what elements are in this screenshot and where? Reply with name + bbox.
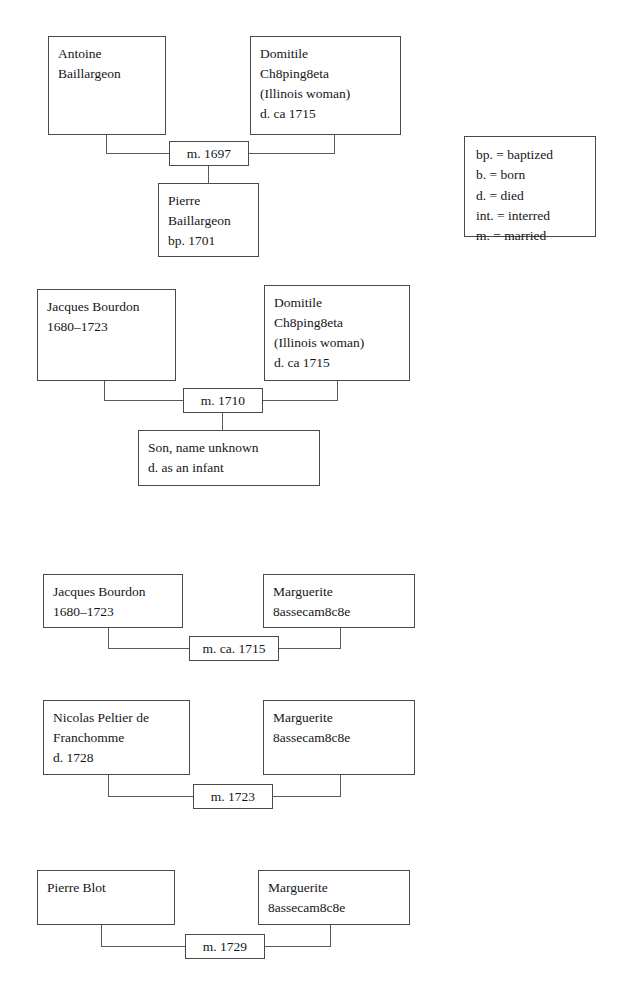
marriage-label: m. 1729 xyxy=(203,940,247,954)
person-line: d. ca 1715 xyxy=(274,353,400,373)
connector-mother-drop xyxy=(334,135,335,154)
person-box-mother[interactable]: Domitile Ch8ping8eta (Illinois woman) d.… xyxy=(250,36,401,135)
person-line: Baillargeon xyxy=(168,211,249,231)
marriage-box[interactable]: m. 1723 xyxy=(193,784,273,809)
marriage-label: m. 1697 xyxy=(187,147,231,161)
person-line: Pierre xyxy=(168,191,249,211)
person-line: Marguerite xyxy=(273,582,405,602)
person-line: Ch8ping8eta xyxy=(260,64,391,84)
marriage-box[interactable]: m. 1710 xyxy=(183,388,263,413)
legend-line-baptized: bp. = baptized xyxy=(476,145,584,165)
marriage-box[interactable]: m. 1697 xyxy=(169,141,249,166)
person-line: Franchomme xyxy=(53,728,180,748)
person-line: Pierre Blot xyxy=(47,878,165,898)
connector-mother-drop xyxy=(337,381,338,401)
person-line: Baillargeon xyxy=(58,64,156,84)
legend-line-died: d. = died xyxy=(476,186,584,206)
person-box-father[interactable]: Jacques Bourdon 1680–1723 xyxy=(43,574,183,628)
connector-child-drop xyxy=(222,413,223,431)
person-box-father[interactable]: Antoine Baillargeon xyxy=(48,36,166,135)
connector-father-horizontal xyxy=(101,946,186,947)
person-line: (Illinois woman) xyxy=(260,84,391,104)
person-line: 1680–1723 xyxy=(47,317,166,337)
legend-line-married: m. = married xyxy=(476,226,584,246)
connector-mother-horizontal xyxy=(248,153,335,154)
connector-mother-horizontal xyxy=(265,946,331,947)
connector-mother-horizontal xyxy=(272,796,341,797)
marriage-label: m. ca. 1715 xyxy=(203,642,266,656)
person-line: d. 1728 xyxy=(53,748,180,768)
person-line: 8assecam8c8e xyxy=(268,898,400,918)
person-line: 1680–1723 xyxy=(53,602,173,622)
connector-mother-drop xyxy=(330,925,331,947)
connector-father-drop xyxy=(106,135,107,154)
person-line: Domitile xyxy=(274,293,400,313)
person-box-child[interactable]: Son, name unknown d. as an infant xyxy=(138,430,320,486)
person-line: d. ca 1715 xyxy=(260,104,391,124)
connector-father-drop xyxy=(104,381,105,401)
connector-mother-drop xyxy=(340,628,341,649)
person-line: Marguerite xyxy=(268,878,400,898)
connector-father-horizontal xyxy=(104,400,184,401)
connector-father-horizontal xyxy=(108,796,194,797)
connector-mother-drop xyxy=(340,775,341,797)
connector-father-drop xyxy=(108,775,109,797)
person-line: Jacques Bourdon xyxy=(53,582,173,602)
person-line: Marguerite xyxy=(273,708,405,728)
person-box-father[interactable]: Pierre Blot xyxy=(37,870,175,925)
connector-father-drop xyxy=(108,628,109,649)
marriage-box[interactable]: m. 1729 xyxy=(185,934,265,959)
legend-line-born: b. = born xyxy=(476,165,584,185)
person-line: 8assecam8c8e xyxy=(273,602,405,622)
connector-father-horizontal xyxy=(108,648,190,649)
person-line: Domitile xyxy=(260,44,391,64)
marriage-box[interactable]: m. ca. 1715 xyxy=(189,636,279,661)
marriage-label: m. 1710 xyxy=(201,394,245,408)
legend-line-interred: int. = interred xyxy=(476,206,584,226)
person-line: bp. 1701 xyxy=(168,231,249,251)
person-line: Ch8ping8eta xyxy=(274,313,400,333)
person-line: (Illinois woman) xyxy=(274,333,400,353)
connector-mother-horizontal xyxy=(262,400,338,401)
person-box-father[interactable]: Nicolas Peltier de Franchomme d. 1728 xyxy=(43,700,190,775)
person-box-mother[interactable]: Domitile Ch8ping8eta (Illinois woman) d.… xyxy=(264,285,410,381)
marriage-label: m. 1723 xyxy=(211,790,255,804)
connector-father-horizontal xyxy=(106,153,170,154)
person-box-mother[interactable]: Marguerite 8assecam8c8e xyxy=(263,700,415,775)
genealogy-chart-page: Antoine Baillargeon Domitile Ch8ping8eta… xyxy=(0,0,625,1005)
person-line: Nicolas Peltier de xyxy=(53,708,180,728)
abbreviation-legend: bp. = baptized b. = born d. = died int. … xyxy=(464,136,596,237)
connector-child-drop xyxy=(208,166,209,184)
person-line: 8assecam8c8e xyxy=(273,728,405,748)
person-box-mother[interactable]: Marguerite 8assecam8c8e xyxy=(263,574,415,628)
person-box-mother[interactable]: Marguerite 8assecam8c8e xyxy=(258,870,410,925)
person-line: d. as an infant xyxy=(148,458,310,478)
person-line: Son, name unknown xyxy=(148,438,310,458)
connector-father-drop xyxy=(101,925,102,947)
person-box-father[interactable]: Jacques Bourdon 1680–1723 xyxy=(37,289,176,381)
person-line: Antoine xyxy=(58,44,156,64)
person-line: Jacques Bourdon xyxy=(47,297,166,317)
person-box-child[interactable]: Pierre Baillargeon bp. 1701 xyxy=(158,183,259,257)
